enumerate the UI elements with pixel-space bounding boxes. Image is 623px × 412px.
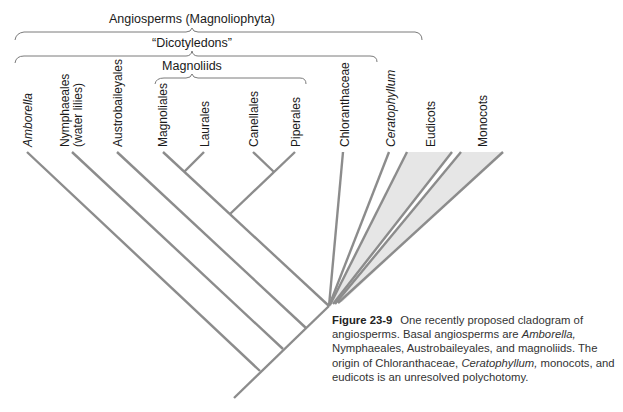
branch-laurales (184, 152, 204, 172)
branch-canellales (253, 152, 274, 172)
trunk (234, 306, 329, 398)
figure-number: Figure 23-9 (332, 314, 392, 326)
figure-caption: Figure 23-9One recently proposed cladogr… (332, 313, 622, 384)
branch-amborella (27, 152, 260, 371)
angiosperms-label: Angiosperms (Magnoliophyta) (109, 12, 275, 26)
taxon-eudicots: Eudicots (425, 101, 438, 147)
taxon-magnoliales: Magnoliales (157, 83, 170, 147)
taxon-amborella: Amborella (22, 93, 35, 147)
taxon-canellales: Canellales (248, 91, 261, 147)
taxon-piperales: Piperales (290, 97, 303, 147)
taxon-nymphaeales-sublabel: (water lilies) (72, 83, 85, 147)
taxon-chloranthaceae: Chloranthaceae (339, 62, 352, 147)
bracket-magnoliids (155, 74, 306, 84)
caption-italic-ceratophyllum: Ceratophyllum, (461, 357, 537, 369)
taxon-ceratophyllum: Ceratophyllum (385, 70, 398, 147)
taxon-monocots: Monocots (477, 95, 490, 147)
cladogram-figure: Angiosperms (Magnoliophyta) “Dicotyledon… (0, 0, 623, 412)
caption-italic-amborella: Amborella, (522, 328, 576, 340)
branch-nymphaeales (72, 152, 283, 349)
dicotyledons-label: “Dicotyledons” (152, 36, 232, 50)
magnoliids-label: Magnoliids (162, 59, 222, 73)
branch-magnoliales (163, 152, 329, 306)
branch-eudicots-right (333, 152, 452, 304)
branch-austrobaileyales (117, 152, 306, 328)
taxon-laurales: Laurales (199, 101, 212, 147)
taxon-austrobaileyales: Austrobaileyales (112, 59, 125, 147)
